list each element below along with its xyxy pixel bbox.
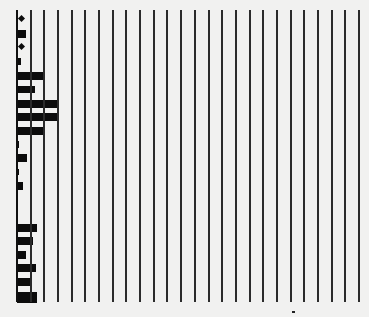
baseline-axis-line [16,10,18,302]
grid-line [71,10,73,302]
grid-line [303,10,305,302]
grid-line [166,10,168,302]
grid-line [153,10,155,302]
bar-mark [17,278,31,286]
bar-mark [17,100,59,108]
grid-line [194,10,196,302]
grid-line [358,10,360,302]
grid-line [208,10,210,302]
grid-line [262,10,264,302]
scanned-bar-figure [0,0,369,317]
dot-marker [18,43,25,50]
bar-mark [17,224,37,232]
scan-speck [292,311,295,313]
bar-mark [17,251,26,259]
grid-line [276,10,278,302]
bar-mark [17,154,27,162]
grid-line [344,10,346,302]
grid-line [57,10,59,302]
grid-line [235,10,237,302]
bar-mark [17,264,36,272]
grid-line [84,10,86,302]
grid-line [331,10,333,302]
grid-line [290,10,292,302]
grid-line [221,10,223,302]
grid-line [249,10,251,302]
grid-line [98,10,100,302]
grid-line [30,10,32,302]
grid-line [125,10,127,302]
dot-marker [18,15,25,22]
bar-mark [17,292,37,303]
grid-line [112,10,114,302]
bar-mark [17,30,26,38]
grid-line [317,10,319,302]
grid-line [139,10,141,302]
grid-line [43,10,45,302]
grid-line [180,10,182,302]
bar-mark [17,86,35,93]
bar-mark [17,113,59,121]
